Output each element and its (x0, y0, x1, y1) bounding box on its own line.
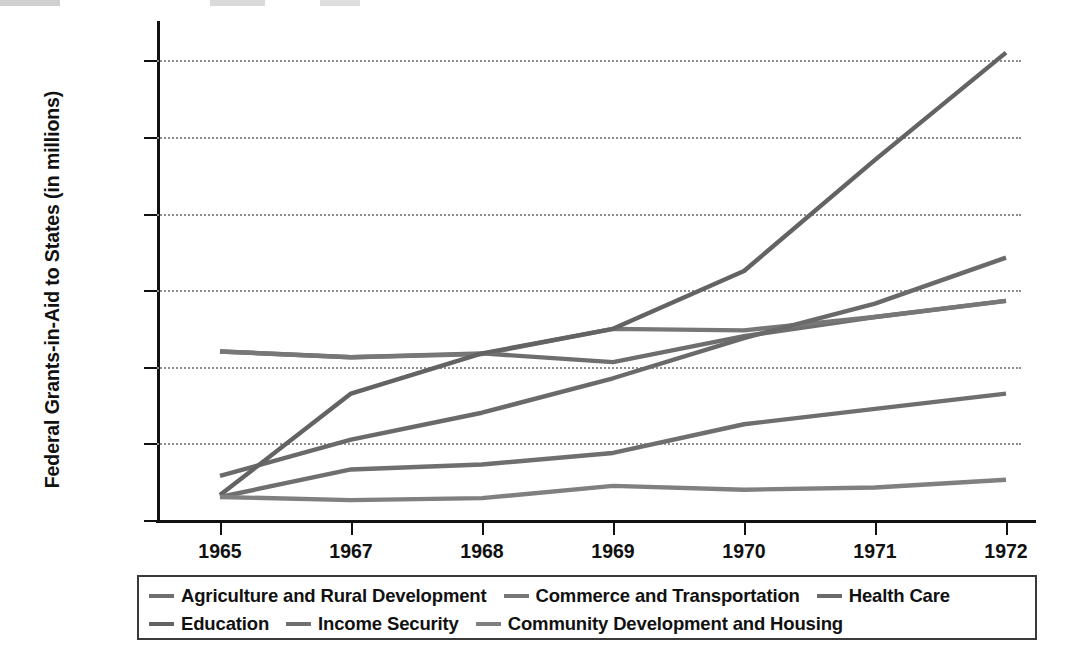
legend-line-swatch-icon (149, 594, 174, 598)
series-line (220, 480, 1006, 500)
legend-item[interactable]: Commerce and Transportation (504, 585, 800, 607)
legend-item[interactable]: Agriculture and Rural Development (149, 585, 487, 607)
legend-row: Agriculture and Rural DevelopmentCommerc… (149, 582, 1025, 610)
x-tick-mark (482, 521, 484, 535)
x-tick-mark (220, 521, 222, 535)
x-tick-mark (613, 521, 615, 535)
x-tick-label: 1970 (684, 540, 804, 563)
legend-item[interactable]: Education (149, 613, 269, 635)
chart-legend: Agriculture and Rural DevelopmentCommerc… (137, 575, 1037, 640)
x-axis-line (156, 520, 1036, 523)
legend-line-swatch-icon (504, 594, 529, 598)
x-tick-mark (744, 521, 746, 535)
series-lines-layer (157, 22, 1021, 520)
legend-label: Health Care (849, 585, 950, 607)
legend-label: Agriculture and Rural Development (181, 585, 487, 607)
y-tick-mark (144, 367, 157, 369)
legend-label: Commerce and Transportation (536, 585, 800, 607)
scan-artifact-strip (0, 0, 1071, 6)
legend-line-swatch-icon (476, 622, 501, 626)
series-line (220, 53, 1006, 495)
y-tick-mark (144, 443, 157, 445)
y-tick-mark (144, 137, 157, 139)
legend-row: EducationIncome SecurityCommunity Develo… (149, 610, 1025, 638)
y-tick-mark (144, 520, 157, 522)
series-line (220, 258, 1006, 476)
legend-label: Education (181, 613, 269, 635)
y-axis-title: Federal Grants-in-Aid to States (in mill… (41, 30, 64, 550)
series-line (220, 301, 1006, 362)
x-tick-label: 1971 (815, 540, 935, 563)
legend-line-swatch-icon (286, 622, 311, 626)
x-tick-label: 1968 (422, 540, 542, 563)
y-tick-mark (144, 290, 157, 292)
x-tick-label: 1969 (553, 540, 673, 563)
x-tick-label: 1965 (160, 540, 280, 563)
legend-item[interactable]: Income Security (286, 613, 459, 635)
x-tick-label: 1972 (946, 540, 1066, 563)
x-tick-mark (1006, 521, 1008, 535)
line-chart-figure: Federal Grants-in-Aid to States (in mill… (0, 0, 1071, 672)
plot-area: $0$2,000$4,000$6,000$8,000$10,000$12,000… (157, 22, 1021, 520)
y-tick-mark (144, 214, 157, 216)
legend-line-swatch-icon (817, 594, 842, 598)
x-tick-label: 1967 (291, 540, 411, 563)
x-tick-mark (351, 521, 353, 535)
legend-line-swatch-icon (149, 622, 174, 626)
x-tick-mark (875, 521, 877, 535)
legend-label: Income Security (318, 613, 459, 635)
legend-item[interactable]: Health Care (817, 585, 950, 607)
legend-item[interactable]: Community Development and Housing (476, 613, 843, 635)
legend-label: Community Development and Housing (508, 613, 843, 635)
y-tick-mark (144, 60, 157, 62)
